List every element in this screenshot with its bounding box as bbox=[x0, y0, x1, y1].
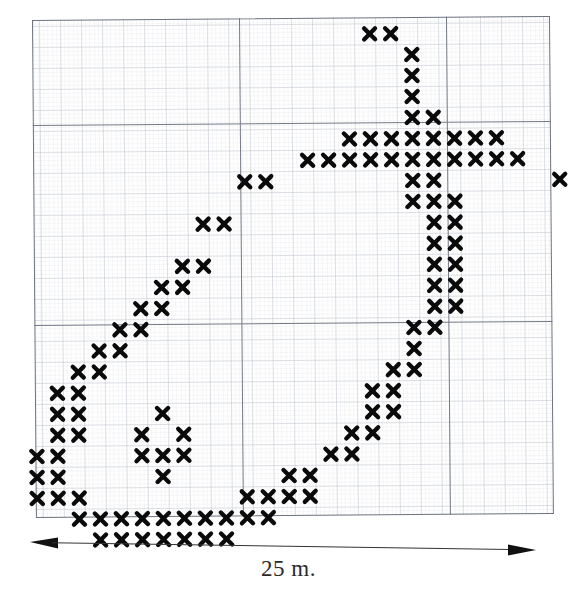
data-point-x-mark bbox=[28, 468, 45, 485]
data-point-x-mark bbox=[132, 321, 149, 338]
data-point-x-mark bbox=[173, 257, 190, 274]
scale-bar-label: 25 m. bbox=[0, 556, 577, 582]
data-point-x-mark bbox=[445, 129, 462, 146]
data-point-x-mark bbox=[405, 339, 422, 356]
data-point-x-mark bbox=[257, 173, 274, 190]
data-point-x-mark bbox=[301, 487, 318, 504]
data-point-x-mark bbox=[425, 234, 442, 251]
data-point-x-mark bbox=[154, 404, 171, 421]
data-point-x-mark bbox=[404, 150, 421, 167]
data-point-x-mark bbox=[424, 108, 441, 125]
data-point-x-mark bbox=[132, 300, 149, 317]
data-point-x-mark bbox=[28, 489, 45, 506]
data-point-x-mark bbox=[236, 173, 253, 190]
data-point-x-mark bbox=[49, 468, 66, 485]
data-point-x-mark bbox=[238, 488, 255, 505]
data-point-x-mark bbox=[215, 215, 232, 232]
data-point-x-mark bbox=[446, 213, 463, 230]
arrow-right-icon bbox=[508, 545, 536, 556]
data-point-x-mark bbox=[425, 171, 442, 188]
data-point-x-mark bbox=[133, 447, 150, 464]
data-point-x-mark bbox=[426, 318, 443, 335]
data-point-x-mark bbox=[154, 509, 171, 526]
data-point-x-mark bbox=[425, 213, 442, 230]
data-point-x-mark bbox=[403, 129, 420, 146]
data-point-x-mark bbox=[343, 445, 360, 462]
data-point-x-mark bbox=[238, 509, 255, 526]
data-point-x-mark bbox=[49, 426, 66, 443]
data-point-x-mark bbox=[467, 150, 484, 167]
data-point-x-mark bbox=[382, 130, 399, 147]
data-point-x-mark bbox=[424, 129, 441, 146]
data-point-x-mark bbox=[69, 363, 86, 380]
data-point-layer bbox=[32, 16, 554, 518]
data-point-x-mark bbox=[466, 129, 483, 146]
data-point-x-mark bbox=[447, 276, 464, 293]
data-point-x-mark bbox=[301, 466, 318, 483]
data-point-x-mark bbox=[154, 467, 171, 484]
data-point-x-mark bbox=[322, 445, 339, 462]
data-point-x-mark bbox=[111, 342, 128, 359]
data-point-x-mark bbox=[382, 25, 399, 42]
data-point-x-mark bbox=[70, 510, 87, 527]
data-point-x-mark bbox=[362, 151, 379, 168]
data-point-x-mark bbox=[446, 234, 463, 251]
data-point-x-mark bbox=[153, 278, 170, 295]
data-point-x-mark bbox=[133, 426, 150, 443]
data-point-x-mark bbox=[175, 509, 192, 526]
data-point-x-mark bbox=[363, 382, 380, 399]
data-point-x-mark bbox=[425, 150, 442, 167]
data-point-x-mark bbox=[361, 25, 378, 42]
data-point-x-mark bbox=[217, 509, 234, 526]
data-point-x-mark bbox=[446, 150, 463, 167]
data-point-x-mark bbox=[364, 424, 381, 441]
data-point-x-mark bbox=[70, 405, 87, 422]
data-point-x-mark bbox=[70, 426, 87, 443]
data-point-x-mark bbox=[111, 321, 128, 338]
data-point-x-mark bbox=[425, 192, 442, 209]
data-point-x-mark bbox=[49, 447, 66, 464]
data-point-x-mark bbox=[69, 384, 86, 401]
data-point-x-mark bbox=[280, 487, 297, 504]
data-point-x-mark bbox=[446, 192, 463, 209]
data-point-x-mark bbox=[280, 466, 297, 483]
data-point-x-mark bbox=[175, 425, 192, 442]
data-point-x-mark bbox=[299, 151, 316, 168]
data-point-x-mark bbox=[133, 510, 150, 527]
data-point-x-mark bbox=[426, 297, 443, 314]
data-point-x-mark bbox=[49, 489, 66, 506]
data-point-x-mark bbox=[425, 255, 442, 272]
data-point-x-mark bbox=[175, 446, 192, 463]
data-point-x-mark bbox=[509, 150, 526, 167]
data-point-x-mark bbox=[361, 130, 378, 147]
data-point-x-mark bbox=[446, 255, 463, 272]
data-point-x-mark bbox=[259, 488, 276, 505]
data-point-x-mark bbox=[28, 447, 45, 464]
data-point-x-mark bbox=[90, 342, 107, 359]
data-point-x-mark bbox=[383, 151, 400, 168]
data-point-x-mark bbox=[488, 150, 505, 167]
data-point-x-mark bbox=[447, 297, 464, 314]
data-point-x-mark bbox=[343, 424, 360, 441]
data-point-x-mark bbox=[320, 151, 337, 168]
plot-area bbox=[32, 16, 554, 518]
data-point-x-mark bbox=[90, 363, 107, 380]
data-point-x-mark bbox=[487, 129, 504, 146]
data-point-x-mark bbox=[426, 276, 443, 293]
data-point-x-mark bbox=[404, 192, 421, 209]
data-point-x-mark bbox=[385, 403, 402, 420]
data-point-x-mark bbox=[404, 171, 421, 188]
data-point-x-mark bbox=[194, 257, 211, 274]
data-point-x-mark bbox=[48, 384, 65, 401]
data-point-x-mark bbox=[259, 509, 276, 526]
data-point-x-mark bbox=[194, 215, 211, 232]
data-point-x-mark bbox=[196, 509, 213, 526]
data-point-x-mark bbox=[49, 405, 66, 422]
data-point-x-mark bbox=[340, 130, 357, 147]
data-point-x-mark bbox=[403, 87, 420, 104]
data-point-x-mark bbox=[341, 151, 358, 168]
data-point-x-mark bbox=[551, 170, 568, 187]
data-point-x-mark bbox=[70, 489, 87, 506]
data-point-x-mark bbox=[384, 382, 401, 399]
data-point-x-mark bbox=[403, 45, 420, 62]
